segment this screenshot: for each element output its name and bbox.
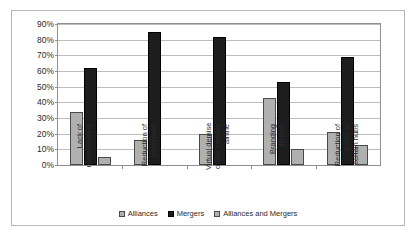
x-axis-category-label: Brandingdilution xyxy=(268,170,314,172)
x-axis-category-label-line: Reduction of xyxy=(140,124,149,170)
y-axis-tick-mark xyxy=(55,165,58,166)
x-axis-category-label-line: personnel xyxy=(149,124,158,170)
x-axis-category-label-line: traffic in xyxy=(342,124,351,170)
x-axis-category-label-line: Virtual demise xyxy=(204,124,213,170)
x-axis-category-label: Reduction oftraffic incertain hubs xyxy=(333,170,379,172)
y-axis-tick-label: 50% xyxy=(37,83,54,92)
y-axis-tick-mark xyxy=(55,55,58,56)
legend-swatch-icon xyxy=(119,211,125,217)
legend-swatch-icon xyxy=(168,211,174,217)
legend-label: Mergers xyxy=(177,209,205,218)
gridline xyxy=(58,24,380,25)
chart-figure: 90%80%70%60%50%40%30%20%10%0% Lack ofman… xyxy=(11,10,405,226)
y-axis-tick-label: 80% xyxy=(37,36,54,45)
y-axis-tick-mark xyxy=(55,134,58,135)
x-axis-category-label: Lack ofmanoeuvring xyxy=(75,170,121,172)
y-axis-tick-mark xyxy=(55,118,58,119)
y-axis-tick-label: 10% xyxy=(37,145,54,154)
y-axis-tick-mark xyxy=(55,71,58,72)
legend-swatch-icon xyxy=(214,211,220,217)
y-axis-tick-mark xyxy=(55,40,58,41)
x-axis-category-label-line: Reduction of xyxy=(333,124,342,170)
y-axis-tick-mark xyxy=(55,102,58,103)
x-axis-tick-mark xyxy=(316,165,317,169)
legend-item-mergers[interactable]: Mergers xyxy=(168,209,205,218)
x-axis-category-label-line: of the smaller xyxy=(213,124,222,170)
x-axis-category-label-line: Lack of xyxy=(75,124,84,170)
x-axis-category-label-line: Branding xyxy=(268,124,277,170)
chart-legend: AlliancesMergersAlliances and Mergers xyxy=(12,209,404,218)
x-axis-tick-mark xyxy=(187,165,188,169)
y-axis-tick-label: 60% xyxy=(37,67,54,76)
x-axis-category-label-line: airline xyxy=(222,124,231,170)
x-axis-category-label: Virtual demiseof the smallerairline xyxy=(204,170,250,172)
bar-alliances-and-mergers xyxy=(291,149,304,165)
y-axis-tick-mark xyxy=(55,24,58,25)
x-axis-tick-mark xyxy=(122,165,123,169)
x-axis-category-label-line: dilution xyxy=(277,124,286,170)
legend-item-alliances[interactable]: Alliances xyxy=(119,209,158,218)
y-axis-tick-label: 30% xyxy=(37,114,54,123)
x-axis-category-label-line: certain hubs xyxy=(351,124,360,170)
bar-alliances-and-mergers xyxy=(98,157,111,165)
x-axis-category-label-line: manoeuvring xyxy=(84,124,93,170)
legend-label: Alliances xyxy=(128,209,158,218)
x-axis-category-label: Reduction ofpersonnel xyxy=(140,170,186,172)
y-axis-tick-label: 70% xyxy=(37,51,54,60)
legend-item-alliances-and-mergers[interactable]: Alliances and Mergers xyxy=(214,209,297,218)
x-axis-tick-mark xyxy=(251,165,252,169)
y-axis-tick-label: 20% xyxy=(37,130,54,139)
y-axis-tick-mark xyxy=(55,87,58,88)
legend-label: Alliances and Mergers xyxy=(223,209,297,218)
y-axis-tick-label: 90% xyxy=(37,20,54,29)
y-axis-tick-mark xyxy=(55,149,58,150)
y-axis-tick-label: 40% xyxy=(37,98,54,107)
y-axis-tick-label: 0% xyxy=(42,161,54,170)
